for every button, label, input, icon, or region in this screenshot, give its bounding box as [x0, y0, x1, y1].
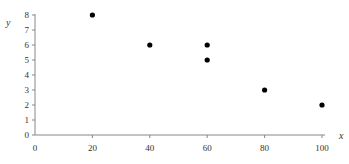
ticks: 012345678020406080100: [25, 10, 330, 153]
y-tick-label: 4: [25, 70, 30, 80]
x-tick-label: 80: [260, 143, 270, 153]
data-point: [90, 12, 95, 17]
y-tick-label: 5: [25, 55, 30, 65]
data-point: [147, 42, 152, 47]
y-tick-label: 3: [25, 85, 30, 95]
y-tick-label: 8: [25, 10, 30, 20]
y-tick-label: 7: [25, 25, 30, 35]
x-tick-label: 0: [33, 143, 38, 153]
x-tick-label: 20: [88, 143, 98, 153]
data-point: [319, 102, 324, 107]
y-tick-label: 6: [25, 40, 30, 50]
y-tick-label: 1: [25, 115, 30, 125]
y-tick-label: 0: [25, 130, 30, 140]
scatter-chart: 012345678020406080100 x y: [0, 0, 349, 164]
y-tick-label: 2: [25, 100, 30, 110]
data-point: [205, 57, 210, 62]
data-points: [90, 12, 325, 107]
x-axis-label: x: [338, 130, 344, 141]
x-tick-label: 100: [315, 143, 329, 153]
x-tick-label: 60: [203, 143, 213, 153]
data-point: [205, 42, 210, 47]
y-axis-label: y: [5, 17, 11, 28]
axes: [35, 14, 325, 135]
x-tick-label: 40: [145, 143, 155, 153]
data-point: [262, 87, 267, 92]
